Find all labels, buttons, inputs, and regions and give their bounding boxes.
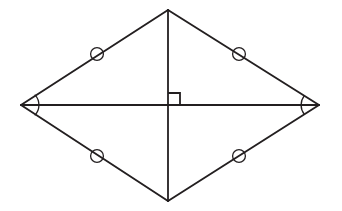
geometry-figure	[0, 0, 342, 211]
geometry-canvas	[0, 0, 342, 211]
